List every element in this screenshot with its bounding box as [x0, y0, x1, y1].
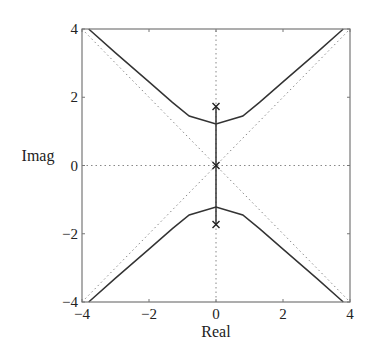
root-locus-chart: −4−2024−4−2024 Real Imag — [0, 0, 370, 353]
y-tick-label: 0 — [71, 158, 79, 174]
y-tick-label: −2 — [62, 226, 78, 242]
x-tick-label: −2 — [141, 306, 157, 322]
tick-layer: −4−2024−4−2024 — [62, 21, 354, 322]
x-axis-label: Real — [201, 323, 231, 340]
y-tick-label: 2 — [71, 89, 79, 105]
x-tick-label: 4 — [346, 306, 354, 322]
x-tick-label: 0 — [212, 306, 220, 322]
y-axis-label: Imag — [22, 147, 55, 165]
y-tick-label: 4 — [71, 21, 79, 37]
x-tick-label: 2 — [279, 306, 287, 322]
y-tick-label: −4 — [62, 294, 78, 310]
